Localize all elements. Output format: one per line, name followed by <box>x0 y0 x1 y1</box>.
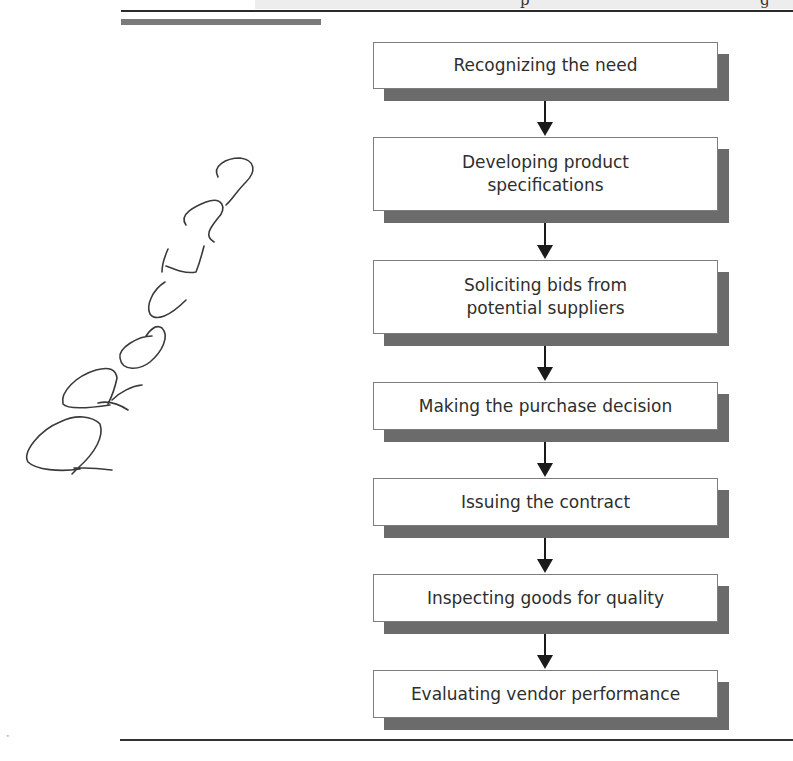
flow-step: Inspecting goods for quality <box>373 574 718 622</box>
step-box: Making the purchase decision <box>373 382 718 430</box>
down-arrow-icon <box>537 538 553 573</box>
handwritten-process-note <box>0 0 300 500</box>
step-box: Recognizing the need <box>373 42 718 89</box>
step-box: Issuing the contract <box>373 478 718 526</box>
down-arrow-icon <box>537 346 553 381</box>
flow-step: Evaluating vendor performance <box>373 670 718 718</box>
step-box: Soliciting bids from potential suppliers <box>373 260 718 334</box>
bottom-rule <box>120 739 793 741</box>
flow-step: Soliciting bids from potential suppliers <box>373 260 718 334</box>
down-arrow-icon <box>537 634 553 669</box>
down-arrow-icon <box>537 101 553 136</box>
header-partial-text: g <box>760 0 770 9</box>
step-box: Inspecting goods for quality <box>373 574 718 622</box>
header-partial-text: p <box>520 0 530 9</box>
down-arrow-icon <box>537 223 553 259</box>
stray-mark: • <box>6 732 10 739</box>
flow-step: Developing product specifications <box>373 137 718 211</box>
flow-step: Issuing the contract <box>373 478 718 526</box>
step-box: Developing product specifications <box>373 137 718 211</box>
flow-step: Making the purchase decision <box>373 382 718 430</box>
flow-step: Recognizing the need <box>373 42 718 89</box>
step-box: Evaluating vendor performance <box>373 670 718 718</box>
down-arrow-icon <box>537 442 553 477</box>
